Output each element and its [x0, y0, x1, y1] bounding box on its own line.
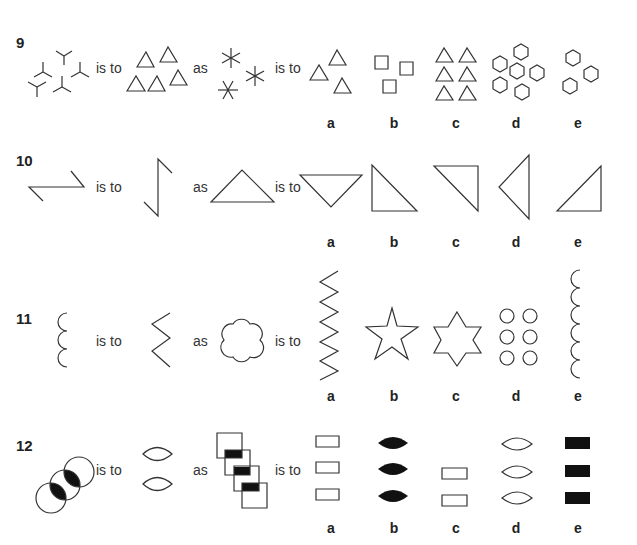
q12-option-b-label[interactable]: b [384, 520, 404, 536]
q12-options [0, 0, 637, 545]
q12-option-c-figure [442, 468, 467, 506]
q12-option-e-figure [565, 437, 590, 504]
q12-option-a-label[interactable]: a [321, 520, 341, 536]
q12-option-e-label[interactable]: e [568, 520, 588, 536]
q12-option-a-figure [316, 436, 339, 500]
q12-option-d-figure [502, 438, 532, 504]
q12-option-c-label[interactable]: c [446, 520, 466, 536]
q12-option-d-label[interactable]: d [506, 520, 526, 536]
q12-option-b-figure [378, 437, 408, 502]
